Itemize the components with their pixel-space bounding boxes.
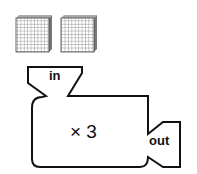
- hundred-block-2: [61, 15, 97, 52]
- hundred-block-1: [16, 15, 52, 52]
- operation-label: × 3: [70, 121, 97, 143]
- output-label: out: [149, 133, 169, 148]
- input-label: in: [49, 68, 61, 83]
